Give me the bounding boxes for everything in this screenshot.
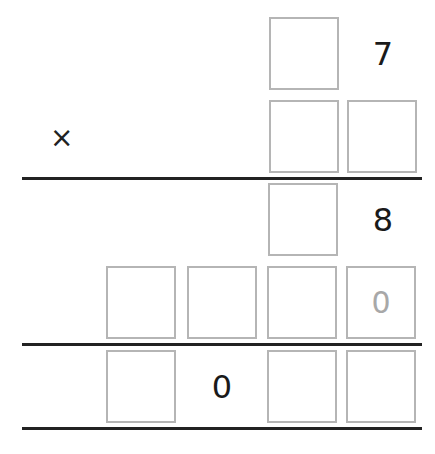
divider-line-2 [22, 343, 422, 346]
divider-line-1 [22, 177, 422, 180]
result-thousands-box[interactable] [106, 350, 176, 423]
partial2-thousands-box[interactable] [106, 266, 176, 339]
partial2-hundreds-box[interactable] [187, 266, 257, 339]
multiplicand-tens-box[interactable] [269, 17, 339, 90]
result-tens-box[interactable] [267, 350, 337, 423]
result-ones-box[interactable] [346, 350, 416, 423]
result-hundreds-digit: 0 [187, 350, 257, 423]
divider-line-3 [22, 427, 422, 430]
partial2-tens-box[interactable] [267, 266, 337, 339]
partial2-ones-box[interactable]: 0 [346, 266, 416, 339]
multiplicand-ones-digit: 7 [348, 17, 418, 90]
partial1-tens-box[interactable] [268, 183, 338, 256]
multiplier-tens-box[interactable] [269, 100, 339, 173]
multiplier-ones-box[interactable] [347, 100, 417, 173]
multiply-operator: × [50, 121, 73, 154]
partial2-ones-hint: 0 [371, 285, 390, 320]
partial1-ones-digit: 8 [348, 183, 418, 256]
